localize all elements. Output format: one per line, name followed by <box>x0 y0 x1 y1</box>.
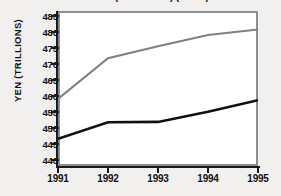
x-tick-label: 1991 <box>47 173 68 184</box>
y-tick-mark <box>51 143 59 145</box>
x-tick-mark <box>107 166 109 173</box>
y-tick-mark <box>51 111 59 113</box>
y-axis-label: YEN (TRILLIONS) <box>12 1 23 121</box>
chart-figure: GDP (at 1990 Yen) ( 1995 ) YEN (TRILLION… <box>0 0 281 196</box>
y-tick-mark <box>51 31 59 33</box>
y-tick-mark <box>51 63 59 65</box>
y-tick-mark <box>51 47 59 49</box>
line-black-series <box>58 100 258 139</box>
x-tick-label: 1993 <box>147 173 168 184</box>
x-tick-label: 1995 <box>247 173 268 184</box>
y-tick-mark <box>51 159 59 161</box>
y-tick-mark <box>51 79 59 81</box>
plot-lines <box>58 11 258 166</box>
chart-title: GDP (at 1990 Yen) ( 1995 ) <box>55 0 245 2</box>
y-tick-mark <box>51 127 59 129</box>
x-tick-label: 1994 <box>197 173 218 184</box>
chart-title-clipped: GDP (at 1990 Yen) ( 1995 ) <box>0 0 281 5</box>
x-tick-mark <box>207 166 209 173</box>
y-tick-mark <box>51 15 59 17</box>
x-tick-label: 1992 <box>97 173 118 184</box>
x-tick-mark <box>157 166 159 173</box>
line-gray-series <box>58 30 258 99</box>
y-tick-mark <box>51 95 59 97</box>
x-tick-mark <box>257 166 259 173</box>
x-tick-mark <box>57 166 59 173</box>
